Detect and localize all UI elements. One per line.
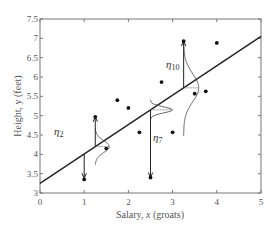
data-point <box>215 41 219 45</box>
eta-10-label: η10 <box>166 58 179 72</box>
data-point <box>115 98 119 102</box>
data-point <box>126 106 130 110</box>
eta-7-label: η7 <box>153 131 162 145</box>
y-tick-label: 5.5 <box>27 91 39 101</box>
y-axis-label: Height, y (feet) <box>12 75 24 136</box>
y-tick-label: 4.5 <box>27 130 39 140</box>
y-tick-label: 3 <box>34 188 39 198</box>
x-tick-label: 3 <box>170 197 175 207</box>
y-tick-label: 6 <box>34 72 39 82</box>
data-point <box>138 130 142 134</box>
x-tick-label: 2 <box>126 197 131 207</box>
y-tick-label: 3.5 <box>27 169 39 179</box>
data-point <box>82 178 86 182</box>
data-point <box>104 147 108 151</box>
x-tick-label: 4 <box>215 197 220 207</box>
x-tick-label: 5 <box>259 197 264 207</box>
data-point <box>193 92 197 96</box>
y-tick-label: 4 <box>34 149 39 159</box>
y-tick-label: 5 <box>34 111 39 121</box>
data-point <box>182 39 186 43</box>
x-tick-label: 1 <box>82 197 87 207</box>
data-point <box>149 176 153 180</box>
data-point <box>93 115 97 119</box>
y-tick-label: 7.5 <box>27 14 39 24</box>
data-point <box>160 80 164 84</box>
tick-labels: 01234533.544.555.566.577.5 <box>27 14 264 207</box>
y-tick-label: 6.5 <box>27 53 39 63</box>
x-axis-label: Salary, x (groats) <box>116 209 184 221</box>
data-point <box>204 89 208 93</box>
x-tick-label: 0 <box>38 197 43 207</box>
eta-2-label: η2 <box>54 125 63 139</box>
data-point <box>171 130 175 134</box>
y-tick-label: 7 <box>34 33 39 43</box>
chart-canvas: 01234533.544.555.566.577.5 η2 η7 η10 Sal… <box>0 0 273 231</box>
